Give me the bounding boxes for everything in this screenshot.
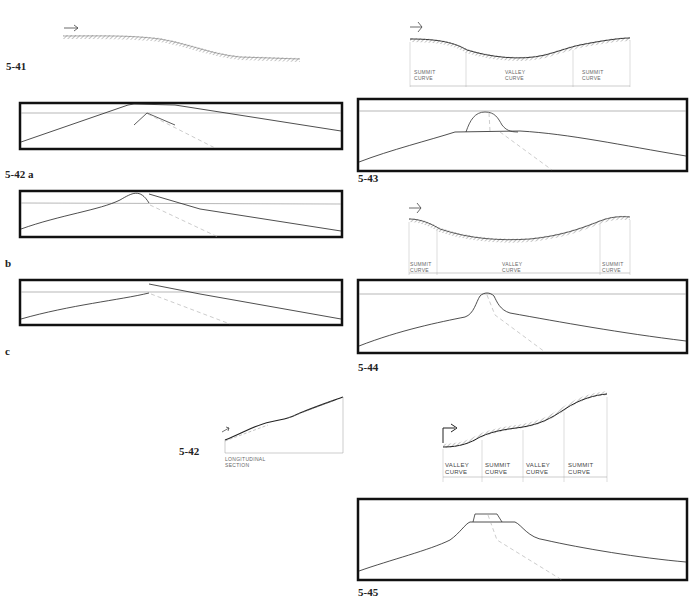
perspective-5-42a <box>20 103 342 149</box>
svg-text:CURVE: CURVE <box>502 267 521 273</box>
profile-5-44: SUMMIT CURVE VALLEY CURVE SUMMIT CURVE <box>409 203 630 275</box>
perspective-5-45 <box>358 499 687 580</box>
profile-5-45: VALLEY CURVE SUMMIT CURVE VALLEY CURVE S… <box>443 393 607 482</box>
direction-arrow-icon <box>222 427 229 432</box>
perspective-5-43 <box>358 99 687 171</box>
perspective-5-42b <box>20 191 342 237</box>
svg-text:SUMMIT: SUMMIT <box>568 462 593 468</box>
svg-text:CURVE: CURVE <box>602 267 621 273</box>
diagram-canvas: LONGITUDINAL SECTION SUMMIT CURVE VALLEY… <box>0 0 695 604</box>
svg-text:CURVE: CURVE <box>526 469 548 475</box>
profile-5-43: SUMMIT CURVE VALLEY CURVE SUMMIT CURVE <box>410 22 630 87</box>
profile-5-41 <box>63 25 300 60</box>
svg-text:CURVE: CURVE <box>485 469 507 475</box>
direction-arrow-icon <box>443 424 457 443</box>
svg-text:SUMMIT: SUMMIT <box>485 462 510 468</box>
svg-text:VALLEY: VALLEY <box>526 462 550 468</box>
longitudinal-section-5-42: LONGITUDINAL SECTION <box>222 397 343 468</box>
svg-text:CURVE: CURVE <box>410 267 429 273</box>
svg-text:CURVE: CURVE <box>445 469 467 475</box>
perspective-5-44 <box>358 280 687 353</box>
svg-text:CURVE: CURVE <box>568 469 590 475</box>
svg-text:CURVE: CURVE <box>414 75 433 81</box>
direction-arrow-icon <box>409 203 421 213</box>
svg-text:CURVE: CURVE <box>505 75 524 81</box>
svg-text:CURVE: CURVE <box>582 75 601 81</box>
perspective-5-42c <box>20 280 342 325</box>
svg-text:VALLEY: VALLEY <box>445 462 469 468</box>
direction-arrow-icon <box>64 25 78 31</box>
direction-arrow-icon <box>410 22 422 32</box>
caption-section: SECTION <box>225 462 249 468</box>
